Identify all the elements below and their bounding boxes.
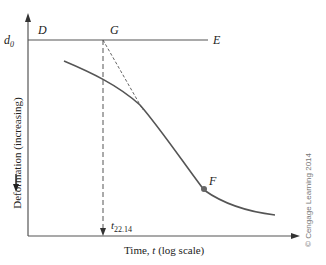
point-f-marker	[201, 186, 207, 192]
t-value-label: t22.14	[111, 219, 132, 234]
point-g-label: G	[110, 23, 119, 37]
consolidation-diagram: d0 D G E F t22.14 Time, t (log scale) De…	[0, 0, 326, 265]
y-axis-label: Deformation (increasing)	[11, 97, 24, 209]
y-axis-arrow-icon	[25, 13, 31, 22]
copyright-text: © Cengage Learning 2014	[304, 152, 313, 247]
consolidation-curve	[64, 61, 275, 215]
point-d-label: D	[37, 23, 47, 37]
point-f-label: F	[208, 174, 217, 188]
x-axis-arrow-icon	[291, 233, 300, 239]
point-e-label: E	[212, 33, 221, 47]
x-axis-label: Time, t (log scale)	[124, 244, 205, 257]
t-arrow-icon	[100, 228, 106, 236]
tangent-dashed-line	[103, 40, 143, 110]
d0-label: d0	[4, 33, 14, 49]
